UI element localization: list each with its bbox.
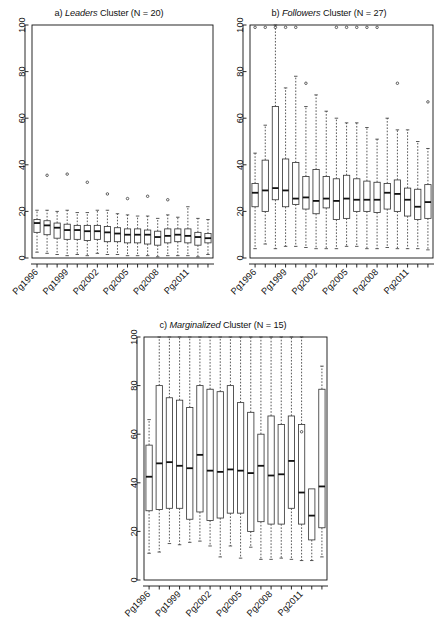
boxplot-box	[333, 26, 339, 249]
boxplot-box	[415, 142, 421, 249]
boxplot-box	[272, 25, 278, 249]
y-tick-label: 100	[17, 17, 27, 32]
x-tick-label: Pg2008	[131, 267, 160, 296]
outlier-point	[376, 26, 379, 29]
boxplot-box	[278, 337, 284, 558]
x-tick-label: Pg2011	[162, 267, 191, 296]
panel-c-title: c) Marginalized Cluster (N = 15)	[112, 320, 334, 330]
outlier-point	[335, 26, 338, 29]
boxplot-box	[404, 130, 410, 249]
panel-a-cluster-name: Leaders	[65, 8, 98, 18]
panel-marginalized: c) Marginalized Cluster (N = 15) 0204060…	[112, 312, 334, 634]
x-tick-label: Pg2011	[276, 589, 305, 618]
x-tick-label: Pg2008	[245, 589, 274, 618]
panel-a-letter: a)	[55, 8, 63, 18]
outlier-point	[427, 101, 430, 104]
y-tick-label: 100	[235, 17, 245, 32]
boxplot-box	[282, 26, 288, 246]
boxplot-box	[134, 216, 140, 256]
outlier-point	[284, 26, 287, 29]
boxplot-box	[258, 337, 264, 559]
y-tick-label: 80	[129, 380, 139, 390]
boxplot-box	[44, 174, 50, 253]
outlier-point	[305, 82, 308, 85]
outlier-point	[126, 197, 128, 200]
panel-a-title: a) Leaders Cluster (N = 20)	[0, 8, 218, 18]
boxplot-box	[248, 337, 254, 547]
boxplot-box	[227, 337, 233, 546]
y-tick-label: 0	[129, 577, 139, 582]
outlier-point	[295, 26, 298, 29]
boxplot-box	[156, 337, 162, 552]
y-tick-label: 20	[129, 526, 139, 536]
outlier-point	[106, 193, 109, 196]
boxplot-box	[205, 220, 211, 255]
boxplot-box	[155, 218, 161, 256]
boxplot-box	[84, 181, 90, 256]
y-tick-label: 0	[235, 255, 245, 260]
boxplot-box	[364, 26, 370, 249]
boxplot-box	[54, 211, 60, 254]
x-tick-label: Pg2002	[71, 267, 100, 296]
boxplot-box	[104, 193, 110, 255]
panel-a-plot: 020406080100Pg1996Pg1999Pg2002Pg2005Pg20…	[0, 0, 218, 310]
boxplot-box	[34, 210, 40, 252]
boxplot-box	[185, 207, 191, 256]
outlier-point	[167, 199, 170, 202]
y-tick-label: 60	[235, 113, 245, 123]
boxplot-box	[309, 489, 315, 561]
panel-c-letter: c)	[160, 320, 167, 330]
boxplot-box	[262, 26, 268, 244]
outlier-point	[274, 26, 277, 29]
outlier-point	[345, 26, 348, 29]
boxplot-box	[217, 337, 223, 557]
y-tick-label: 20	[235, 206, 245, 216]
boxplot-box	[124, 197, 130, 255]
outlier-point	[46, 174, 49, 177]
outlier-point	[366, 26, 369, 29]
outlier-point	[396, 82, 399, 85]
boxplot-box	[195, 218, 201, 256]
boxplot-box	[319, 366, 325, 557]
boxplot-box	[175, 217, 181, 255]
outlier-point	[264, 26, 267, 29]
x-tick-label: Pg2008	[351, 267, 380, 296]
y-tick-label: 60	[129, 429, 139, 439]
x-tick-label: Pg1999	[259, 267, 288, 296]
boxplot-box	[323, 111, 329, 248]
y-tick-label: 40	[129, 478, 139, 488]
boxplot-box	[145, 195, 151, 256]
panel-b-title-suffix: Cluster (N = 27)	[323, 8, 387, 18]
boxplot-box	[313, 95, 319, 249]
x-tick-label: Pg2002	[184, 589, 213, 618]
x-tick-label: Pg1999	[153, 589, 182, 618]
outlier-point	[66, 173, 69, 176]
boxplot-box	[303, 82, 309, 248]
y-tick-label: 80	[235, 66, 245, 76]
boxplot-box	[374, 26, 380, 249]
boxplot-figure: a) Leaders Cluster (N = 20) 020406080100…	[0, 0, 440, 634]
y-tick-label: 40	[235, 160, 245, 170]
x-tick-label: Pg2005	[320, 267, 349, 296]
y-tick-label: 0	[17, 255, 27, 260]
panel-followers: b) Followers Cluster (N = 27) 0204060801…	[218, 0, 440, 310]
boxplot-box	[187, 337, 193, 542]
boxplot-box	[197, 337, 203, 541]
boxplot-box	[252, 26, 258, 249]
boxplot-box	[354, 26, 360, 246]
panel-c-plot: 020406080100Pg1996Pg1999Pg2002Pg2005Pg20…	[112, 312, 334, 634]
y-tick-label: 20	[17, 206, 27, 216]
boxplot-box	[343, 26, 349, 246]
outlier-point	[146, 195, 149, 198]
boxplot-box	[293, 26, 299, 246]
boxplot-box	[74, 213, 80, 255]
panel-b-plot: 020406080100Pg1996Pg1999Pg2002Pg2005Pg20…	[218, 0, 440, 310]
boxplot-box	[94, 210, 100, 253]
y-tick-label: 40	[17, 160, 27, 170]
outlier-point	[254, 26, 257, 29]
panel-b-letter: b)	[272, 8, 280, 18]
boxplot-box	[298, 337, 304, 561]
boxplot-box	[237, 337, 243, 558]
boxplot-box	[114, 214, 120, 255]
boxplot-box	[165, 199, 171, 256]
